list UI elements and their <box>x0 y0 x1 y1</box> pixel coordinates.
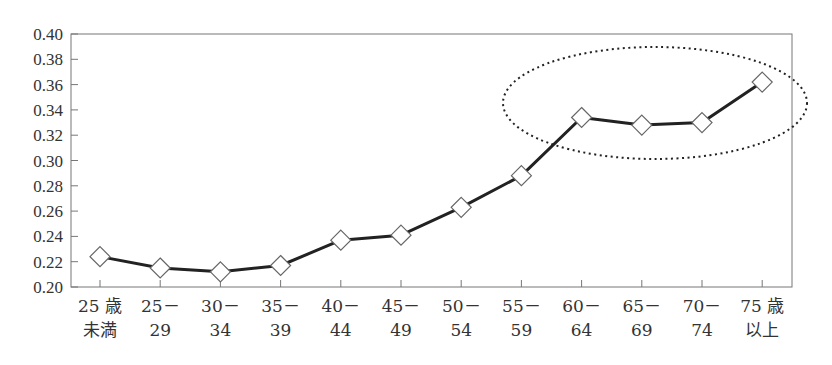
highlight-ellipse <box>503 47 807 159</box>
x-tick-label: 70－ <box>683 296 722 316</box>
y-tick-label: 0.32 <box>33 126 63 145</box>
line-chart: 0.200.220.240.260.280.300.320.340.360.38… <box>0 0 832 365</box>
x-tick-label: 29 <box>149 320 171 340</box>
x-tick-label: 50－ <box>442 296 481 316</box>
y-tick-label: 0.20 <box>33 278 63 297</box>
diamond-marker <box>90 247 110 267</box>
x-tick-label: 69 <box>631 320 653 340</box>
y-tick-label: 0.34 <box>33 101 63 120</box>
diamond-marker <box>692 113 712 133</box>
x-tick-label: 25 歳 <box>78 296 122 316</box>
x-tick-label: 44 <box>330 320 352 340</box>
x-tick-label: 40－ <box>321 296 360 316</box>
y-tick-label: 0.30 <box>33 152 63 171</box>
x-tick-label: 64 <box>571 320 593 340</box>
x-tick-label: 39 <box>270 320 292 340</box>
x-tick-label: 74 <box>691 320 713 340</box>
x-tick-label: 49 <box>390 320 412 340</box>
y-tick-label: 0.28 <box>33 177 63 196</box>
y-tick-label: 0.36 <box>33 76 63 95</box>
x-tick-label: 75 歳 <box>740 296 784 316</box>
x-tick-label: 54 <box>450 320 472 340</box>
diamond-marker <box>391 225 411 245</box>
y-tick-label: 0.24 <box>33 227 63 246</box>
data-line <box>100 82 762 272</box>
x-tick-label: 45－ <box>382 296 421 316</box>
data-markers <box>90 72 772 282</box>
x-tick-label: 55－ <box>502 296 541 316</box>
x-tick-label: 59 <box>511 320 533 340</box>
x-tick-label: 以上 <box>745 320 779 340</box>
diamond-marker <box>210 262 230 282</box>
x-tick-label: 34 <box>210 320 232 340</box>
diamond-marker <box>150 258 170 278</box>
diamond-marker <box>271 255 291 275</box>
diamond-marker <box>752 72 772 92</box>
x-tick-label: 65－ <box>622 296 661 316</box>
x-tick-label: 25－ <box>141 296 180 316</box>
diamond-marker <box>331 230 351 250</box>
x-tick-label: 60－ <box>562 296 601 316</box>
y-tick-label: 0.22 <box>33 253 63 272</box>
x-tick-label: 30－ <box>201 296 240 316</box>
y-tick-label: 0.26 <box>33 202 63 221</box>
diamond-marker <box>451 197 471 217</box>
y-tick-label: 0.38 <box>33 50 63 69</box>
y-tick-label: 0.40 <box>33 25 63 44</box>
diamond-marker <box>632 115 652 135</box>
x-axis: 25 歳未満25－2930－3435－3940－4445－4950－5455－5… <box>78 280 784 340</box>
x-tick-label: 未満 <box>83 320 117 340</box>
plot-frame <box>71 34 792 287</box>
x-tick-label: 35－ <box>261 296 300 316</box>
